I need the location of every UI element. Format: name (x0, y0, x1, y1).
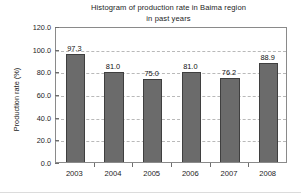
y-axis-label: 120.0 (0, 23, 51, 32)
chart-title-line-2: in past years (146, 14, 190, 23)
bar-value-label: 88.9 (260, 53, 274, 62)
y-axis-label: 60.0 (0, 91, 51, 100)
x-axis-label: 2007 (221, 169, 238, 178)
chart-title-line-1: Histogram of production rate in Baima re… (91, 3, 246, 12)
x-axis-tick (171, 163, 172, 167)
bar (104, 72, 123, 163)
x-axis-tick (94, 163, 95, 167)
y-axis-tick (55, 163, 59, 164)
chart-title: Histogram of production rate in Baima re… (50, 3, 287, 24)
y-axis-tick (55, 50, 59, 51)
x-axis-tick (132, 163, 133, 167)
x-axis-label: 2005 (143, 169, 160, 178)
x-axis-label: 2008 (259, 169, 276, 178)
bar (66, 54, 85, 163)
bar-value-label: 97.3 (67, 44, 81, 53)
gridline (56, 51, 286, 52)
x-axis-tick (210, 163, 211, 167)
y-axis-tick (55, 27, 59, 28)
gridline (56, 96, 286, 97)
y-axis-label: 100.0 (0, 45, 51, 54)
y-axis-label: 40.0 (0, 113, 51, 122)
bar-value-label: 81.0 (183, 62, 197, 71)
bar (182, 72, 201, 163)
bar (259, 63, 278, 163)
y-axis-tick (55, 95, 59, 96)
bar (220, 78, 239, 163)
bar-value-label: 75.0 (144, 69, 158, 78)
y-axis-tick (55, 118, 59, 119)
y-axis-label: 20.0 (0, 136, 51, 145)
x-axis-tick (248, 163, 249, 167)
x-axis-label: 2003 (66, 169, 83, 178)
bar-value-label: 76.2 (222, 68, 236, 77)
gridline (56, 73, 286, 74)
bar-value-label: 81.0 (106, 62, 120, 71)
gridline (56, 119, 286, 120)
gridline (56, 141, 286, 142)
y-axis-tick (55, 140, 59, 141)
y-axis-label: 0.0 (0, 159, 51, 168)
y-axis-label: 80.0 (0, 68, 51, 77)
bar (143, 79, 162, 163)
plot-area (55, 27, 287, 163)
y-axis-tick (55, 72, 59, 73)
x-axis-label: 2006 (182, 169, 199, 178)
x-axis-label: 2004 (105, 169, 122, 178)
bar-chart: Histogram of production rate in Baima re… (0, 0, 301, 193)
